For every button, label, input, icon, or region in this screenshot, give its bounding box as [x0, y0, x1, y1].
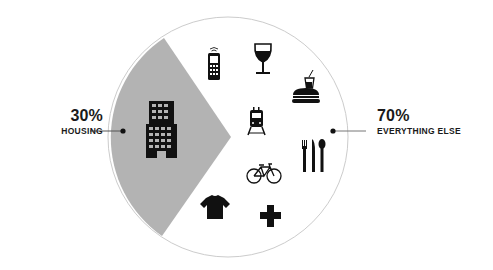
everything-else-percent: 70%: [377, 108, 461, 124]
housing-percent: 30%: [61, 108, 103, 124]
label-housing: 30% HOUSING: [61, 108, 103, 136]
leader-dot-housing: [120, 128, 125, 133]
label-everything-else: 70% EVERYTHING ELSE: [377, 108, 461, 136]
office-building-icon: [146, 101, 177, 158]
housing-category: HOUSING: [61, 127, 103, 136]
leader-dot-everything-else: [330, 128, 335, 133]
everything-else-category: EVERYTHING ELSE: [377, 127, 461, 136]
